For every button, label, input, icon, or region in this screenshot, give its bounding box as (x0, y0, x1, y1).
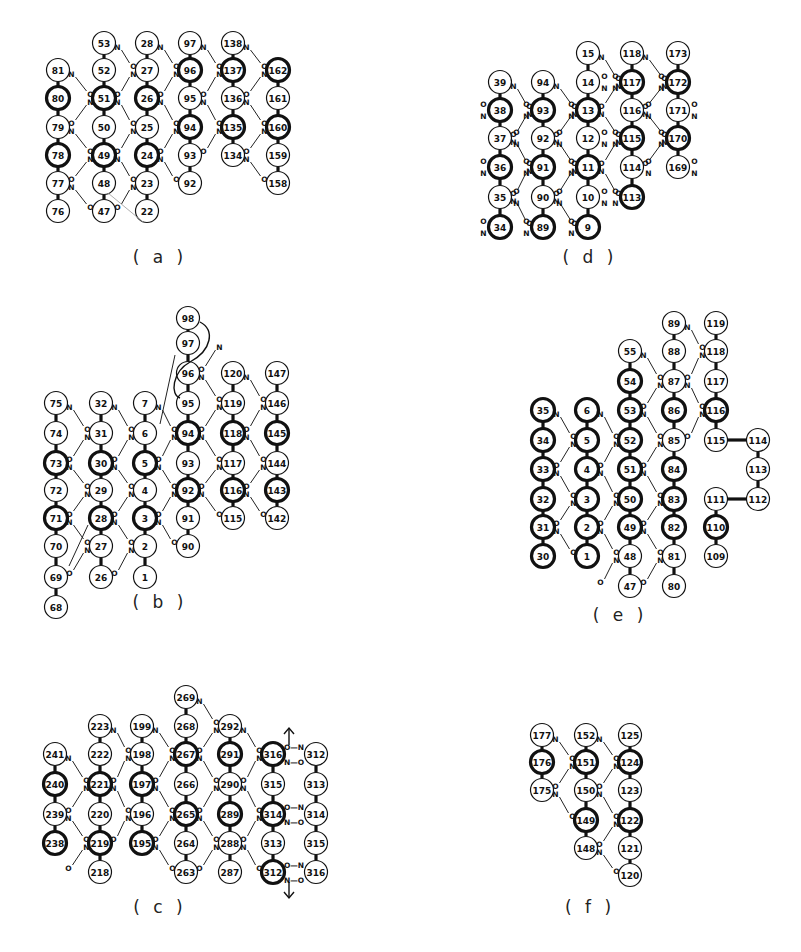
residue-number: 49 (624, 523, 637, 533)
residue-32: 32 (90, 392, 113, 415)
hydrogen-bond (251, 410, 260, 426)
hydrogen-bond (118, 733, 125, 747)
hydrogen-bond (561, 506, 570, 520)
residue-number: 269 (177, 693, 196, 703)
nitrogen-label: N (645, 169, 651, 178)
residue-97: 97 (179, 32, 202, 55)
residue-number: 96 (182, 369, 195, 379)
hydrogen-bond (160, 733, 169, 747)
residue-27: 27 (136, 59, 159, 82)
hydrogen-bond (74, 553, 84, 570)
residue-number: 1 (142, 573, 148, 583)
residue-77: 77 (47, 172, 70, 195)
residue-number: 94 (182, 429, 195, 439)
hydrogen-bond (160, 850, 169, 865)
residue-81: 81 (47, 59, 70, 82)
residue-number: 123 (621, 786, 640, 796)
residue-number: 47 (98, 207, 111, 217)
residue-number: 175 (533, 786, 552, 796)
hydrogen-bond (208, 105, 216, 120)
residue-4: 4 (134, 479, 157, 502)
residue-number: 117 (224, 459, 243, 469)
hydrogen-bond (208, 134, 216, 148)
hydrogen-bond (604, 855, 613, 868)
residue-number: 142 (268, 514, 287, 524)
hydrogen-bond (204, 850, 213, 865)
residue-125: 125 (619, 724, 642, 747)
hydrogen-bond (160, 821, 169, 836)
residue-78: 78 (47, 144, 70, 167)
residue-number: 34 (537, 436, 550, 446)
residue-3: 3 (134, 507, 157, 530)
panel-label-c: ( c ) (133, 897, 186, 917)
residue-94: 94 (532, 71, 555, 94)
hydrogen-bond (648, 563, 657, 579)
residue-158: 158 (267, 172, 290, 195)
residue-number: 113 (749, 465, 768, 475)
residue-number: 238 (46, 839, 65, 849)
oxygen-label: O (556, 187, 562, 196)
residue-number: 4 (142, 486, 148, 496)
hydrogen-bond (204, 791, 213, 807)
nitrogen-label: N (601, 199, 607, 208)
residue-number: 138 (224, 39, 243, 49)
residue-70: 70 (45, 535, 68, 558)
residue-95: 95 (177, 392, 200, 415)
residue-number: 312 (264, 868, 283, 878)
residue-number: 92 (182, 486, 195, 496)
residue-number: 6 (142, 429, 148, 439)
residue-143: 143 (266, 479, 289, 502)
oxygen-label: O (523, 100, 529, 109)
residue-number: 80 (668, 582, 681, 592)
residue-75: 75 (45, 392, 68, 415)
residue-number: 135 (224, 123, 243, 133)
hydrogen-bond (163, 440, 171, 456)
nitrogen-label: N (691, 112, 697, 121)
residue-14: 14 (577, 71, 600, 94)
residue-90: 90 (177, 535, 200, 558)
residue-171: 171 (667, 99, 690, 122)
residue-24: 24 (136, 144, 159, 167)
residue-264: 264 (175, 832, 198, 855)
hydrogen-bond (251, 162, 261, 176)
residue-number: 95 (182, 399, 195, 409)
residue-89: 89 (532, 216, 555, 239)
residue-number: 197 (133, 780, 152, 790)
oxygen-label: O (65, 864, 71, 873)
residue-number: 33 (537, 465, 550, 475)
residue-196: 196 (131, 803, 154, 826)
hydrogen-bond (204, 821, 213, 836)
hydrogen-bond (163, 470, 171, 483)
hydrogen-bond (251, 105, 261, 120)
residue-number: 93 (182, 459, 195, 469)
residue-number: 2 (142, 542, 148, 552)
residue-number: 35 (494, 193, 507, 203)
residue-6: 6 (134, 422, 157, 445)
residue-number: 195 (133, 839, 152, 849)
residue-number: 51 (624, 465, 637, 475)
residue-91: 91 (532, 156, 555, 179)
residue-12: 12 (577, 127, 600, 150)
residue-96: 96 (177, 362, 200, 385)
hydrogen-bond (206, 380, 216, 396)
residue-34: 34 (489, 216, 512, 239)
hydrogen-bond (163, 497, 171, 511)
residue-312: 312 (305, 743, 328, 766)
residue-170: 170 (667, 127, 690, 150)
residue-number: 13 (582, 106, 595, 116)
residue-number: 5 (142, 459, 148, 469)
residue-118: 118 (222, 422, 245, 445)
residue-159: 159 (267, 144, 290, 167)
residue-5: 5 (576, 429, 599, 452)
hydrogen-bond (248, 733, 256, 747)
residue-98: 98 (177, 307, 200, 330)
residue-number: 68 (50, 603, 63, 613)
hydrogen-bond (648, 534, 657, 549)
hydrogen-bond (122, 134, 130, 148)
residue-number: 196 (133, 810, 152, 820)
nitrogen-label: N (612, 140, 618, 149)
residue-number: 119 (224, 399, 243, 409)
residue-number: 241 (46, 750, 65, 760)
residue-number: 113 (623, 193, 642, 203)
hydrogen-bond (206, 440, 216, 456)
